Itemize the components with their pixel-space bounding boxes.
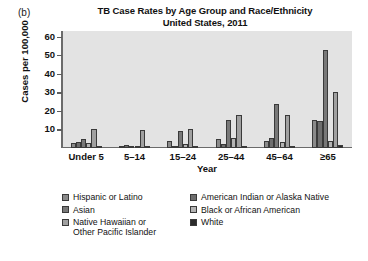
bar — [285, 115, 290, 148]
bar — [145, 146, 150, 148]
y-tick-mark — [57, 111, 62, 112]
y-axis-label: Cases per 100,000 — [19, 2, 30, 122]
legend-label: Hispanic or Latino — [73, 192, 143, 202]
bar — [338, 145, 343, 148]
bar — [193, 146, 198, 148]
x-group-label: Under 5 — [62, 151, 110, 162]
y-tick-mark — [57, 74, 62, 75]
legend-label: White — [201, 217, 223, 227]
legend-item[interactable]: Native Hawaiian or Other Pacific Islande… — [62, 217, 156, 237]
x-group-label: 45–64 — [255, 151, 303, 162]
y-tick-mark — [57, 92, 62, 93]
legend-item[interactable]: Black or African American — [190, 205, 329, 215]
bar — [333, 92, 338, 148]
bar — [97, 146, 102, 148]
legend-swatch-icon — [62, 206, 69, 213]
bar — [236, 115, 241, 148]
plot-area — [62, 31, 352, 148]
y-tick-mark — [57, 129, 62, 130]
chart-title: TB Case Rates by Age Group and Race/Ethn… — [60, 5, 350, 28]
legend-column-right: American Indian or Alaska NativeBlack or… — [190, 192, 329, 230]
bar — [290, 146, 295, 148]
y-tick-label: 40 — [44, 68, 55, 79]
legend-label: Black or African American — [201, 205, 300, 215]
bar — [242, 146, 247, 148]
legend-label: American Indian or Alaska Native — [201, 192, 329, 202]
x-axis-label: Year — [62, 163, 352, 174]
legend-item[interactable]: American Indian or Alaska Native — [190, 192, 329, 202]
chart-title-line-1: TB Case Rates by Age Group and Race/Ethn… — [60, 5, 350, 17]
bar — [323, 50, 328, 148]
legend-item[interactable]: Asian — [62, 205, 156, 215]
y-tick-label: 20 — [44, 105, 55, 116]
y-tick-label: 60 — [44, 31, 55, 42]
legend-swatch-icon — [190, 219, 197, 226]
x-group-label: 25–44 — [207, 151, 255, 162]
legend-column-left: Hispanic or LatinoAsianNative Hawaiian o… — [62, 192, 156, 240]
legend-swatch-icon — [190, 194, 197, 201]
legend-label: Native Hawaiian or Other Pacific Islande… — [73, 217, 156, 237]
legend-label: Asian — [73, 205, 95, 215]
y-tick-mark — [57, 37, 62, 38]
y-tick-label: 10 — [44, 123, 55, 134]
y-tick-label: 50 — [44, 49, 55, 60]
legend-swatch-icon — [62, 194, 69, 201]
legend-item[interactable]: Hispanic or Latino — [62, 192, 156, 202]
x-axis-line — [61, 147, 352, 148]
legend-swatch-icon — [62, 219, 69, 226]
y-tick-mark — [57, 55, 62, 56]
legend-swatch-icon — [190, 206, 197, 213]
chart-title-line-2: United States, 2011 — [60, 17, 350, 29]
legend-item[interactable]: White — [190, 217, 329, 227]
x-group-label: 15–24 — [159, 151, 207, 162]
x-group-label: ≥65 — [304, 151, 352, 162]
x-group-label: 5–14 — [110, 151, 158, 162]
y-tick-label: 30 — [44, 86, 55, 97]
plot-wrapper: 102030405060 Under 55–1415–2425–4445–64≥… — [62, 31, 352, 148]
